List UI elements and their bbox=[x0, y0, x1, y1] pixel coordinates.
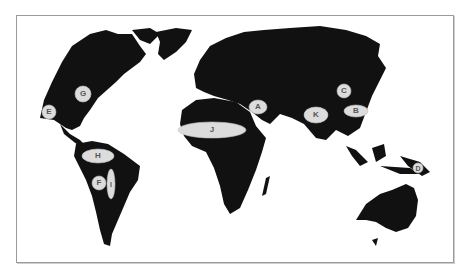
marker-label-h: H bbox=[95, 152, 101, 160]
marker-label-a: A bbox=[255, 103, 261, 111]
landmass-greenland bbox=[156, 28, 192, 60]
world-map bbox=[0, 0, 464, 274]
marker-label-k: K bbox=[313, 111, 319, 119]
landmass-africa bbox=[180, 98, 266, 214]
marker-label-f: F bbox=[97, 179, 102, 187]
marker-label-d: D bbox=[415, 165, 420, 172]
marker-label-j: J bbox=[210, 126, 214, 134]
landmass-australia bbox=[356, 184, 418, 232]
marker-label-i: I bbox=[110, 181, 112, 188]
marker-label-b: B bbox=[353, 107, 359, 115]
landmass-north-america bbox=[40, 30, 146, 130]
marker-label-c: C bbox=[341, 87, 347, 95]
marker-label-e: E bbox=[46, 108, 51, 116]
marker-label-g: G bbox=[80, 90, 86, 98]
